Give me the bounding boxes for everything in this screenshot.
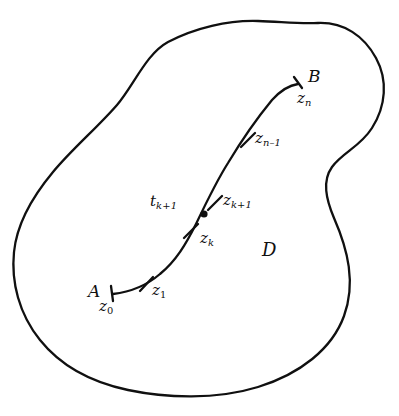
- label-zn: zn: [297, 91, 311, 106]
- label-zk1-sub: k+1: [231, 199, 252, 210]
- label-z1-sub: 1: [160, 289, 166, 300]
- endpoint-tick-b: [294, 77, 302, 88]
- domain-boundary-path: [13, 21, 383, 396]
- label-point-b: B: [308, 68, 321, 85]
- label-zk-plus-1: zk+1: [223, 193, 252, 208]
- label-zn-base: z: [297, 89, 305, 107]
- label-zn1-sub: n–1: [263, 137, 281, 148]
- label-zn1-base: z: [255, 129, 263, 147]
- sample-point-dot: [200, 210, 207, 217]
- label-tk-plus-1: tk+1: [150, 194, 177, 209]
- label-z0: z0: [99, 299, 113, 314]
- label-zn-sub: n: [305, 97, 312, 108]
- label-zk: zk: [200, 231, 214, 246]
- label-z0-base: z: [99, 297, 107, 315]
- figure-container: A B D z0 z1 zk zk+1 tk+1 zn–1 zn: [0, 0, 399, 416]
- label-tk1-sub: k+1: [156, 200, 177, 211]
- label-domain: D: [262, 241, 276, 259]
- label-zk-base: z: [200, 229, 208, 247]
- tick-zk1: [208, 196, 222, 210]
- label-z1: z1: [152, 283, 166, 298]
- label-z1-base: z: [152, 281, 160, 299]
- label-zk-sub: k: [208, 237, 214, 248]
- label-zn-minus-1: zn–1: [255, 131, 281, 146]
- diagram-canvas: [0, 0, 399, 416]
- label-z0-sub: 0: [107, 305, 113, 316]
- label-zk1-base: z: [223, 191, 231, 209]
- contour-curve: [113, 84, 298, 294]
